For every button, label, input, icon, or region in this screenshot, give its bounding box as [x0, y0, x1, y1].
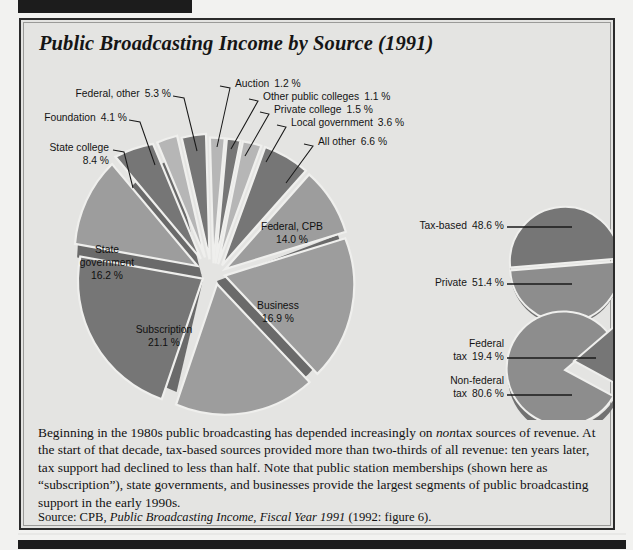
- callout-private-name: Private: [435, 277, 467, 288]
- callout-all-other: All other6.6 %: [318, 136, 387, 149]
- figure-page: Public Broadcasting Income by Source (19…: [0, 0, 633, 550]
- callout-foundation-name: Foundation: [44, 112, 96, 123]
- callout-private-college: Private college1.5 %: [274, 104, 373, 117]
- chart-stage: Federal, other5.3 % Foundation4.1 % Stat…: [21, 20, 613, 420]
- callout-foundation: Foundation4.1 %: [0, 112, 127, 125]
- callout-state-college-name: State college: [49, 142, 109, 153]
- inner-label-federal-cpb: Federal, CPB 14.0 %: [237, 220, 347, 246]
- source-part-a: Source: CPB,: [38, 510, 110, 524]
- callout-private-college-name: Private college: [274, 104, 342, 115]
- callout-federal-tax-value: 19.4 %: [472, 351, 504, 362]
- callout-federal-tax-line1: Federal: [469, 338, 504, 349]
- callout-non-federal-tax-line2: tax: [453, 388, 467, 399]
- callout-federal-tax-line2: tax: [453, 351, 467, 362]
- callout-local-government-name: Local government: [291, 117, 373, 128]
- callout-local-government: Local government3.6 %: [291, 117, 404, 130]
- callout-tax-based: Tax-based48.6 %: [359, 220, 504, 233]
- callout-federal-tax: Federal tax19.4 %: [359, 338, 504, 363]
- caption-emphasis: non: [436, 425, 456, 440]
- figure-caption: Beginning in the 1980s public broadcasti…: [38, 424, 598, 511]
- inner-label-business-name: Business: [257, 300, 299, 311]
- callout-federal-other-name: Federal, other: [76, 88, 140, 99]
- callout-auction: Auction1.2 %: [235, 78, 301, 91]
- inner-label-state-government-name2: government: [80, 257, 134, 268]
- callout-local-government-value: 3.6 %: [378, 117, 404, 128]
- callout-non-federal-tax: Non-federal tax80.6 %: [359, 375, 504, 400]
- callout-federal-other-value: 5.3 %: [145, 88, 171, 99]
- callout-auction-name: Auction: [235, 78, 269, 89]
- callout-other-public-colleges-name: Other public colleges: [263, 91, 359, 102]
- source-title: Public Broadcasting Income, Fiscal Year …: [110, 510, 346, 524]
- callout-state-college: State college 8.4 %: [0, 142, 109, 167]
- inner-label-business: Business 16.9 %: [228, 299, 328, 325]
- callout-private-college-value: 1.5 %: [347, 104, 373, 115]
- federal-tax-pie: [507, 311, 613, 420]
- page-crop-bar-top: [18, 0, 192, 13]
- slice-tax-based: [510, 207, 613, 268]
- inner-label-state-government: State government 16.2 %: [52, 243, 162, 282]
- inner-label-federal-cpb-value: 14.0 %: [276, 234, 308, 245]
- inner-label-business-value: 16.9 %: [262, 313, 294, 324]
- callout-non-federal-tax-value: 80.6 %: [472, 388, 504, 399]
- inner-label-subscription: Subscription 21.1 %: [109, 323, 219, 349]
- inner-label-federal-cpb-name: Federal, CPB: [261, 221, 323, 232]
- callout-foundation-value: 4.1 %: [101, 112, 127, 123]
- callout-tax-based-value: 48.6 %: [472, 220, 504, 231]
- callout-other-public-colleges: Other public colleges1.1 %: [263, 91, 391, 104]
- figure-frame: Public Broadcasting Income by Source (19…: [19, 18, 615, 530]
- inner-label-subscription-value: 21.1 %: [148, 337, 180, 348]
- callout-state-college-value: 8.4 %: [83, 155, 109, 166]
- inner-label-subscription-name: Subscription: [136, 324, 193, 335]
- callout-other-public-colleges-value: 1.1 %: [364, 91, 390, 102]
- callout-all-other-value: 6.6 %: [361, 136, 387, 147]
- callout-private: Private51.4 %: [359, 277, 504, 290]
- inner-label-state-government-value: 16.2 %: [91, 270, 123, 281]
- caption-part-a: Beginning in the 1980s public broadcasti…: [38, 425, 436, 440]
- callout-non-federal-tax-line1: Non-federal: [450, 375, 504, 386]
- callout-all-other-name: All other: [318, 136, 356, 147]
- callout-private-value: 51.4 %: [472, 277, 504, 288]
- callout-federal-other: Federal, other5.3 %: [11, 88, 171, 101]
- tax-private-pie: [510, 207, 613, 323]
- page-crop-gap-bottom: [18, 533, 626, 535]
- page-crop-bar-bottom: [18, 540, 626, 549]
- callout-auction-value: 1.2 %: [274, 78, 300, 89]
- figure-source: Source: CPB, Public Broadcasting Income,…: [38, 509, 598, 525]
- callout-tax-based-name: Tax-based: [419, 220, 467, 231]
- source-part-b: (1992: figure 6).: [345, 510, 431, 524]
- inner-label-state-government-name: State: [95, 244, 119, 255]
